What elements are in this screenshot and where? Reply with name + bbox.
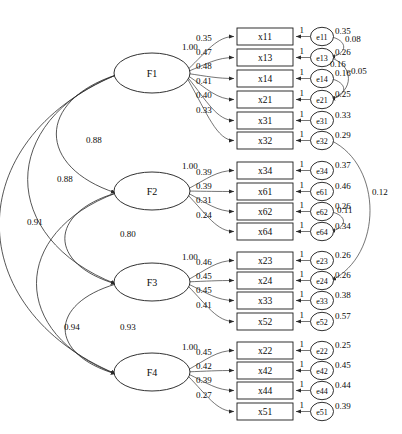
- error-variance-value-e34: 0.37: [335, 160, 351, 170]
- sem-path-diagram: x11e11x13e13x14e14x21e21x31e31x32e32x34e…: [0, 0, 402, 434]
- error-term-label-e24: e24: [316, 277, 328, 286]
- observed-variable-label-x21: x21: [258, 95, 273, 105]
- error-path-coefficient-x44: 1: [300, 379, 305, 389]
- error-term-label-e21: e21: [316, 96, 328, 105]
- factor-correlation-value-F1-F3: 0.88: [57, 174, 73, 184]
- observed-variable-label-x33: x33: [258, 296, 273, 306]
- loading-value-F1-3: 0.48: [196, 61, 212, 71]
- observed-variable-label-x61: x61: [258, 187, 273, 197]
- loading-value-F1-4: 0.41: [196, 76, 212, 86]
- diagram-canvas: x11e11x13e13x14e14x21e21x31e31x32e32x34e…: [0, 0, 402, 434]
- error-term-label-e23: e23: [316, 257, 328, 266]
- error-path-coefficient-x21: 1: [300, 88, 305, 98]
- error-variance-value-e23: 0.26: [335, 250, 351, 260]
- observed-variable-label-x34: x34: [258, 166, 273, 176]
- error-term-label-e64: e64: [316, 228, 328, 237]
- error-path-coefficient-x23: 1: [300, 249, 305, 259]
- error-covariance-value-e13-e21: 0.16: [330, 59, 346, 69]
- observed-variable-label-x44: x44: [258, 386, 273, 396]
- latent-factor-label-F1: F1: [147, 68, 158, 79]
- error-path-coefficient-x64: 1: [300, 220, 305, 230]
- error-term-label-e13: e13: [316, 54, 328, 63]
- loading-value-F2-3: 0.31: [196, 195, 212, 205]
- error-variance-value-e21: 0.25: [335, 89, 351, 99]
- error-variance-value-e31: 0.33: [335, 110, 351, 120]
- error-path-coefficient-x62: 1: [300, 200, 305, 210]
- error-term-label-e61: e61: [316, 188, 328, 197]
- observed-variable-label-x14: x14: [258, 74, 273, 84]
- observed-variable-label-x23: x23: [258, 256, 273, 266]
- error-variance-value-e61: 0.46: [335, 181, 351, 191]
- loading-value-F3-2: 0.45: [196, 271, 212, 281]
- error-path-coefficient-x24: 1: [300, 269, 305, 279]
- error-path-coefficient-x13: 1: [300, 46, 305, 56]
- error-variance-value-e51: 0.39: [335, 401, 351, 411]
- error-path-coefficient-x52: 1: [300, 310, 305, 320]
- factor-correlation-value-F1-F2: 0.88: [86, 135, 102, 145]
- observed-variable-label-x64: x64: [258, 227, 273, 237]
- observed-variable-label-x62: x62: [258, 207, 273, 217]
- loading-value-F1-6: 0.33: [196, 105, 212, 115]
- factor-correlation-arc-F2-F3: [65, 193, 116, 284]
- error-covariance-value-e62-e64: 0.11: [337, 205, 352, 215]
- loading-value-F4-2: 0.42: [196, 361, 212, 371]
- error-variance-value-e32: 0.29: [335, 130, 351, 140]
- observed-variable-label-x51: x51: [258, 407, 273, 417]
- observed-variable-label-x32: x32: [258, 136, 273, 146]
- error-term-label-e44: e44: [316, 387, 328, 396]
- loading-value-F4-1: 0.45: [196, 347, 212, 357]
- loading-value-F2-1: 0.39: [196, 167, 212, 177]
- factor-correlation-arc-F2-F4: [36, 193, 116, 374]
- error-term-label-e52: e52: [316, 318, 328, 327]
- error-covariance-value-e11-e13: 0.08: [345, 34, 361, 44]
- factor-correlation-value-F2-F4: 0.94: [64, 322, 80, 332]
- error-variance-value-e52: 0.57: [335, 311, 351, 321]
- error-path-coefficient-x33: 1: [300, 289, 305, 299]
- error-path-coefficient-x31: 1: [300, 109, 305, 119]
- loading-value-F4-4: 0.27: [196, 390, 212, 400]
- error-path-coefficient-x11: 1: [300, 25, 305, 35]
- loading-value-F4-3: 0.39: [196, 375, 212, 385]
- value-label-layer: 0.880.880.910.800.940.9310.3510.2610.161…: [27, 25, 388, 412]
- latent-factor-label-F3: F3: [147, 277, 158, 288]
- loading-value-F3-3: 0.45: [196, 285, 212, 295]
- error-term-label-e33: e33: [316, 297, 328, 306]
- observed-variable-label-x11: x11: [258, 32, 272, 42]
- error-covariance-value-e32-e24: 0.12: [372, 187, 388, 197]
- error-path-coefficient-x14: 1: [300, 67, 305, 77]
- loading-value-F1-1: 0.35: [196, 33, 212, 43]
- factor-correlation-value-F3-F4: 0.93: [120, 322, 136, 332]
- factor-correlation-value-F2-F3: 0.80: [120, 229, 136, 239]
- error-path-coefficient-x61: 1: [300, 180, 305, 190]
- error-variance-value-e22: 0.25: [335, 340, 351, 350]
- factor-correlation-value-F1-F4: 0.91: [27, 217, 43, 227]
- error-term-label-e22: e22: [316, 347, 328, 356]
- error-variance-value-e64: 0.34: [335, 221, 351, 231]
- loading-value-F1-5: 0.40: [196, 90, 212, 100]
- observed-variable-label-x52: x52: [258, 317, 273, 327]
- loading-value-F2-2: 0.39: [196, 181, 212, 191]
- error-term-label-e32: e32: [316, 137, 328, 146]
- error-path-coefficient-x22: 1: [300, 339, 305, 349]
- error-term-label-e51: e51: [316, 408, 328, 417]
- latent-factor-label-F4: F4: [147, 367, 158, 378]
- latent-factor-label-F2: F2: [147, 186, 158, 197]
- error-variance-value-e44: 0.44: [335, 380, 351, 390]
- error-path-coefficient-x32: 1: [300, 129, 305, 139]
- error-path-coefficient-x51: 1: [300, 400, 305, 410]
- loading-value-F1-2: 0.47: [196, 47, 212, 57]
- factor-correlation-layer: [0, 75, 116, 374]
- error-variance-value-e13: 0.26: [335, 47, 351, 57]
- observed-variable-label-x31: x31: [258, 116, 273, 126]
- factor-correlation-arc-F1-F4: [0, 75, 116, 374]
- error-term-label-e34: e34: [316, 167, 328, 176]
- loading-value-F3-1: 0.46: [196, 257, 212, 267]
- error-variance-value-e24: 0.26: [335, 270, 351, 280]
- error-variance-value-e33: 0.38: [335, 290, 351, 300]
- observed-variable-label-x13: x13: [258, 53, 273, 63]
- error-path-coefficient-x42: 1: [300, 359, 305, 369]
- error-variance-value-e42: 0.45: [335, 360, 351, 370]
- observed-variable-label-x42: x42: [258, 366, 273, 376]
- loading-value-F2-4: 0.24: [196, 210, 212, 220]
- error-term-label-e14: e14: [316, 75, 328, 84]
